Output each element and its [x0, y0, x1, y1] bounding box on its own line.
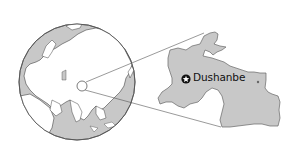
locator-circle — [77, 81, 87, 91]
city-dot-icon — [257, 81, 259, 83]
capital-star-circle-icon — [181, 74, 190, 83]
locator-map — [0, 0, 298, 161]
globe — [18, 20, 135, 148]
capital-label: Dushanbe — [193, 72, 245, 83]
